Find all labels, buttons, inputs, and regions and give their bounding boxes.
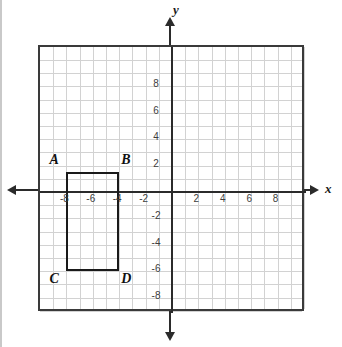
vertex-label-d: D bbox=[121, 272, 131, 286]
x-axis-tick-label: -6 bbox=[81, 193, 101, 204]
rectangle-abcd bbox=[66, 172, 119, 271]
y-axis-tick-label: -8 bbox=[146, 290, 166, 301]
x-axis-tick-label: 8 bbox=[266, 193, 286, 204]
vertex-label-b: B bbox=[121, 153, 130, 167]
y-axis-up-arrow-icon bbox=[165, 17, 175, 26]
y-axis-tick-label: -4 bbox=[146, 237, 166, 248]
x-axis-tick-label: 2 bbox=[186, 193, 206, 204]
y-axis-tick-label: -6 bbox=[146, 263, 166, 274]
x-axis-tick-label: 4 bbox=[213, 193, 233, 204]
plot-frame bbox=[38, 45, 304, 311]
y-axis-label: y bbox=[173, 2, 179, 18]
y-axis-bottom-extension bbox=[169, 311, 171, 332]
vertex-label-a: A bbox=[49, 153, 58, 167]
x-axis-tick-label: -4 bbox=[107, 193, 127, 204]
vertex-label-c: C bbox=[49, 272, 58, 286]
x-axis-tick-label: -2 bbox=[134, 193, 154, 204]
page-edge-artifact bbox=[0, 0, 2, 347]
y-axis-tick-label: -2 bbox=[146, 210, 166, 221]
gridline-vertical bbox=[304, 47, 305, 309]
x-axis-tick-label: -8 bbox=[54, 193, 74, 204]
x-axis-right-extension bbox=[304, 189, 310, 191]
y-axis-line bbox=[171, 47, 173, 313]
y-axis-down-arrow-icon bbox=[165, 332, 175, 341]
y-axis-tick-label: 6 bbox=[146, 105, 166, 116]
x-axis-label: x bbox=[325, 181, 332, 197]
coordinate-plane-figure: x y -8-6-4-224688642-2-4-6-8ABCD bbox=[0, 0, 342, 347]
x-axis-tick-label: 6 bbox=[239, 193, 259, 204]
x-axis-left-arrow-icon bbox=[7, 185, 16, 195]
y-axis-tick-label: 2 bbox=[146, 158, 166, 169]
x-axis-right-arrow-icon bbox=[310, 185, 319, 195]
x-axis-left-extension bbox=[16, 189, 38, 191]
y-axis-tick-label: 8 bbox=[146, 78, 166, 89]
y-axis-top-extension bbox=[169, 26, 171, 45]
y-axis-tick-label: 4 bbox=[146, 131, 166, 142]
